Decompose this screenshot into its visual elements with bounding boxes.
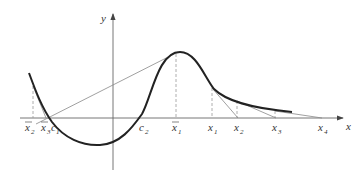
svg-text:3: 3 [277, 128, 282, 136]
svg-text:4: 4 [324, 128, 328, 136]
function-curve [29, 52, 292, 145]
tangent-at-x3 [275, 111, 322, 118]
svg-text:1: 1 [178, 128, 182, 136]
svg-text:x: x [40, 121, 46, 133]
label-xbar3: x 3 [40, 121, 51, 136]
svg-text:x: x [207, 121, 213, 133]
x-axis-label: x [345, 120, 351, 132]
svg-text:c: c [139, 121, 144, 133]
tangent-at-xbar1 [36, 52, 178, 124]
label-x3: x 3 [271, 121, 282, 136]
label-xbar1: x 1 [171, 121, 182, 136]
tangent-at-x1 [212, 88, 238, 118]
svg-text:2: 2 [31, 128, 35, 136]
svg-text:x: x [24, 121, 30, 133]
svg-text:x: x [271, 121, 277, 133]
label-x2: x 2 [233, 121, 244, 136]
svg-text:x: x [171, 121, 177, 133]
label-x1: x 1 [207, 121, 218, 136]
y-axis-label: y [100, 12, 106, 24]
svg-text:2: 2 [240, 128, 244, 136]
label-x4: x 4 [317, 121, 328, 136]
svg-text:x: x [317, 121, 323, 133]
svg-text:1: 1 [214, 128, 218, 136]
svg-text:2: 2 [145, 128, 149, 136]
label-c2: c 2 [139, 121, 149, 136]
svg-text:x: x [233, 121, 239, 133]
newton-method-diagram: x y x 2 x 3 c 1 c 2 x 1 x 1 x 2 [0, 0, 357, 171]
label-xbar2: x 2 [24, 121, 35, 136]
svg-text:1: 1 [56, 128, 60, 136]
label-c1: c 1 [51, 121, 60, 136]
